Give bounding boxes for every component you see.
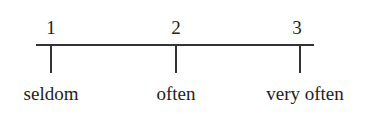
scale-label-very-often: very often [266,83,344,105]
scale-number-3: 3 [292,17,302,39]
tick-2 [175,45,177,73]
scale-number-2: 2 [171,17,181,39]
scale-label-seldom: seldom [24,83,79,105]
scale-number-1: 1 [46,17,56,39]
scale-label-often: often [156,83,195,105]
tick-3 [299,45,301,73]
tick-1 [50,45,52,73]
